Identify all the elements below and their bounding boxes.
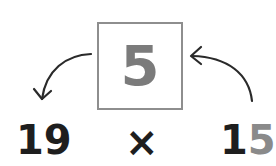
box-digit: 5 — [99, 24, 181, 108]
left-number: 19 — [16, 120, 72, 160]
multiply-operator: × — [125, 122, 159, 162]
right-number: 15 — [220, 120, 276, 160]
left-curved-arrow-icon — [34, 54, 91, 99]
right-curved-arrow-icon — [191, 47, 252, 101]
right-number-tens: 1 — [220, 117, 248, 163]
answer-box: 5 — [97, 22, 183, 110]
right-number-ones: 5 — [248, 117, 276, 163]
